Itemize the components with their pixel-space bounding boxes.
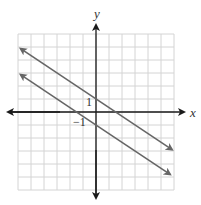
x-tick-label-neg1: −1 [73,115,86,129]
upper-line [21,49,97,100]
y-axis-label: y [92,6,100,21]
lower-line [95,125,170,175]
coordinate-graph: x y 1 −1 [0,0,201,205]
x-axis-label: x [189,105,196,120]
y-tick-label-1: 1 [86,95,92,109]
